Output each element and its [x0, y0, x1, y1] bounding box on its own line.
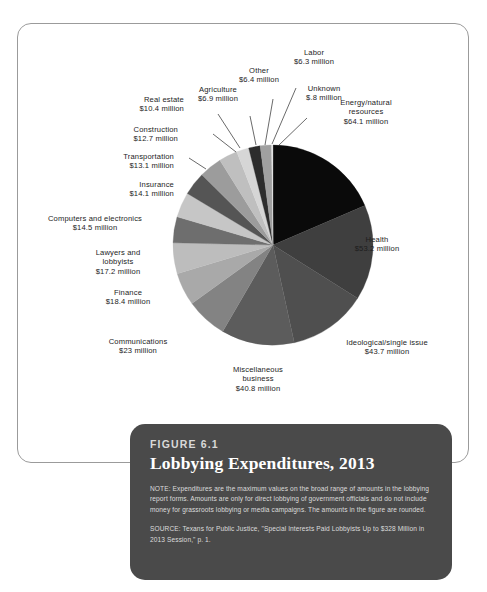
leader-line-agriculture — [250, 116, 256, 145]
figure-number: FIGURE 6.1 — [150, 438, 432, 450]
pie-label-miscellaneous: Miscellaneous business $40.8 million — [212, 365, 304, 393]
leader-line-unknown — [278, 118, 307, 146]
pie-label-health: Health $53.2 million — [338, 235, 416, 254]
pie-label-insurance: Insurance $14.1 million — [62, 180, 174, 199]
figure-title: Lobbying Expenditures, 2013 — [150, 453, 432, 474]
pie-label-agriculture: Agriculture $6.9 million — [178, 85, 258, 104]
pie-label-lawyers: Lawyers and lobbyists $17.2 million — [74, 248, 162, 276]
figure-caption-panel: FIGURE 6.1 Lobbying Expenditures, 2013 N… — [130, 424, 452, 580]
pie-label-labor: Labor $6.3 million — [276, 48, 352, 67]
pie-chart: Labor $6.3 million Other $6.4 million Un… — [0, 0, 487, 440]
pie-label-communications: Communications $23 million — [86, 337, 190, 356]
figure-source: SOURCE: Texans for Public Justice, "Spec… — [150, 524, 432, 545]
pie-label-realestate: Real estate $10.4 million — [88, 95, 184, 114]
pie-label-computers: Computers and electronics $14.5 million — [27, 214, 163, 233]
pie-label-transportation: Transportation $13.1 million — [58, 152, 174, 171]
pie-label-energy: Energy/natural resources $64.1 million — [320, 98, 412, 126]
leader-line-other — [265, 99, 273, 145]
pie-label-construction: Construction $12.7 million — [74, 125, 178, 144]
figure-note: NOTE: Expenditures are the maximum value… — [150, 484, 432, 515]
pie-label-ideological: Ideological/single issue $43.7 million — [328, 338, 446, 357]
leader-line-realestate — [218, 114, 240, 148]
pie-label-other: Other $6.4 million — [222, 66, 296, 85]
pie-label-finance: Finance $18.4 million — [84, 288, 172, 307]
leader-line-transportation — [189, 158, 206, 169]
